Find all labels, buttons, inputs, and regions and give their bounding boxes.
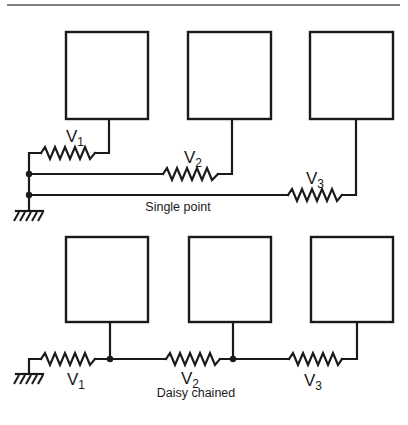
resistor-label-v1: V1 <box>67 370 85 392</box>
resistor-label-v2: V2 <box>184 148 202 170</box>
resistor-label-v1: V1 <box>66 127 84 149</box>
resistor-v1-icon <box>41 353 95 365</box>
caption-daisy-chained: Daisy chained <box>157 386 236 400</box>
circuit-box-3 <box>311 237 393 322</box>
ground-icon <box>14 211 43 221</box>
junction-dot <box>26 171 32 177</box>
circuit-box-1 <box>66 237 148 322</box>
circuit-box-1 <box>66 32 148 119</box>
ground-icon <box>14 374 43 384</box>
circuit-box-2 <box>188 32 271 119</box>
junction-dot <box>107 356 113 362</box>
resistor-label-v3: V3 <box>306 169 324 191</box>
caption-single-point: Single point <box>145 200 211 214</box>
circuit-box-3 <box>310 32 393 119</box>
resistor-label-v3: V3 <box>304 371 322 393</box>
resistor-v3-icon <box>288 189 342 201</box>
resistor-v2-icon <box>166 353 220 365</box>
junction-dot <box>26 192 32 198</box>
single-point-panel: V1 V2 V3 Single point <box>14 32 393 221</box>
resistor-v3-icon <box>289 353 342 365</box>
daisy-chained-panel: V1 V2 V3 Daisy chained <box>14 237 393 400</box>
circuit-box-2 <box>189 237 271 322</box>
resistor-v2-icon <box>163 168 218 180</box>
resistor-v1-icon <box>41 147 95 159</box>
junction-dot <box>230 356 236 362</box>
grounding-diagram: V1 V2 V3 Single point V1 <box>0 0 408 425</box>
